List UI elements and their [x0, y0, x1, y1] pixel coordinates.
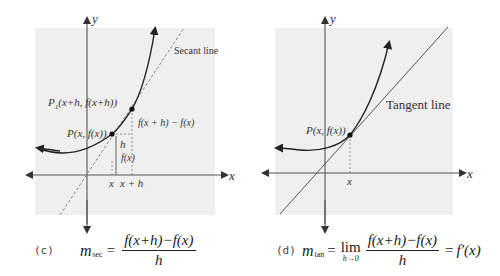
equals-sign-2: = — [445, 242, 453, 259]
m-subscript: sec — [92, 250, 102, 259]
m-symbol: m — [80, 242, 92, 260]
y-axis-label: y — [90, 11, 98, 26]
point-p-label: P(x, f(x)) — [305, 124, 346, 137]
tick-xh-label: x + h — [119, 177, 144, 189]
denominator: h — [399, 251, 407, 269]
tick-x-label: x — [346, 175, 352, 187]
point-p — [347, 132, 352, 137]
equals-sign: = — [107, 242, 115, 259]
tangent-slope-formula: (d) mtan = lim h→0 f(x+h)−f(x) h = f′(x) — [276, 232, 481, 269]
point-p — [109, 131, 114, 136]
numerator: f(x+h)−f(x) — [366, 232, 439, 251]
tangent-line-label: Tangent line — [386, 97, 451, 112]
denominator: h — [155, 251, 163, 269]
x-axis-label: x — [228, 168, 235, 183]
panel-d-background — [275, 28, 453, 215]
point-p-label: P(x, f(x)) — [66, 127, 107, 140]
point-p1 — [129, 106, 134, 111]
difference-label: f(x + h) − f(x) — [138, 117, 195, 129]
fx-label: f(x) — [121, 152, 136, 164]
panel-c-secant: y x Secant line P1(x+h, f(x+h)) P(x, f(x… — [27, 11, 235, 232]
caption-d: (d) — [276, 244, 296, 257]
secant-slope-formula: (c) msec = f(x+h)−f(x) h — [34, 232, 199, 269]
fraction: f(x+h)−f(x) h — [366, 232, 439, 269]
m-subscript: tan — [314, 250, 324, 259]
panel-d-tangent: y x Tangent line P(x, f(x)) x — [263, 11, 473, 232]
limit: lim h→0 — [341, 239, 361, 263]
derivative-result: f′(x) — [457, 242, 481, 259]
h-label: h — [120, 138, 126, 150]
secant-line-label: Secant line — [174, 45, 219, 56]
lim-subscript: h→0 — [343, 254, 359, 263]
numerator: f(x+h)−f(x) — [122, 232, 195, 251]
fraction: f(x+h)−f(x) h — [122, 232, 195, 269]
x-axis-label: x — [466, 166, 473, 181]
caption-c: (c) — [34, 244, 54, 257]
tick-x-label: x — [108, 177, 114, 189]
y-axis-label: y — [328, 11, 336, 26]
equals-sign: = — [327, 242, 335, 259]
m-symbol: m — [302, 242, 314, 260]
